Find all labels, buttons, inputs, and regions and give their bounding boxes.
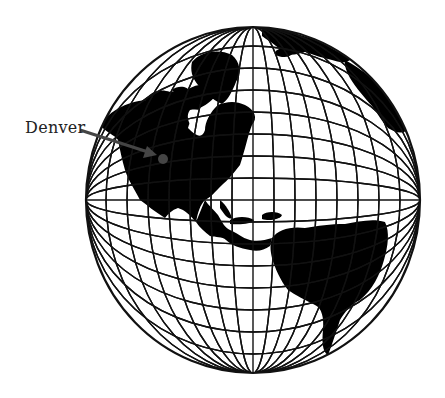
location-dot-icon [158,154,168,164]
globe-map [0,0,445,398]
city-label-denver: Denver [25,118,86,137]
globe-body [80,20,430,380]
